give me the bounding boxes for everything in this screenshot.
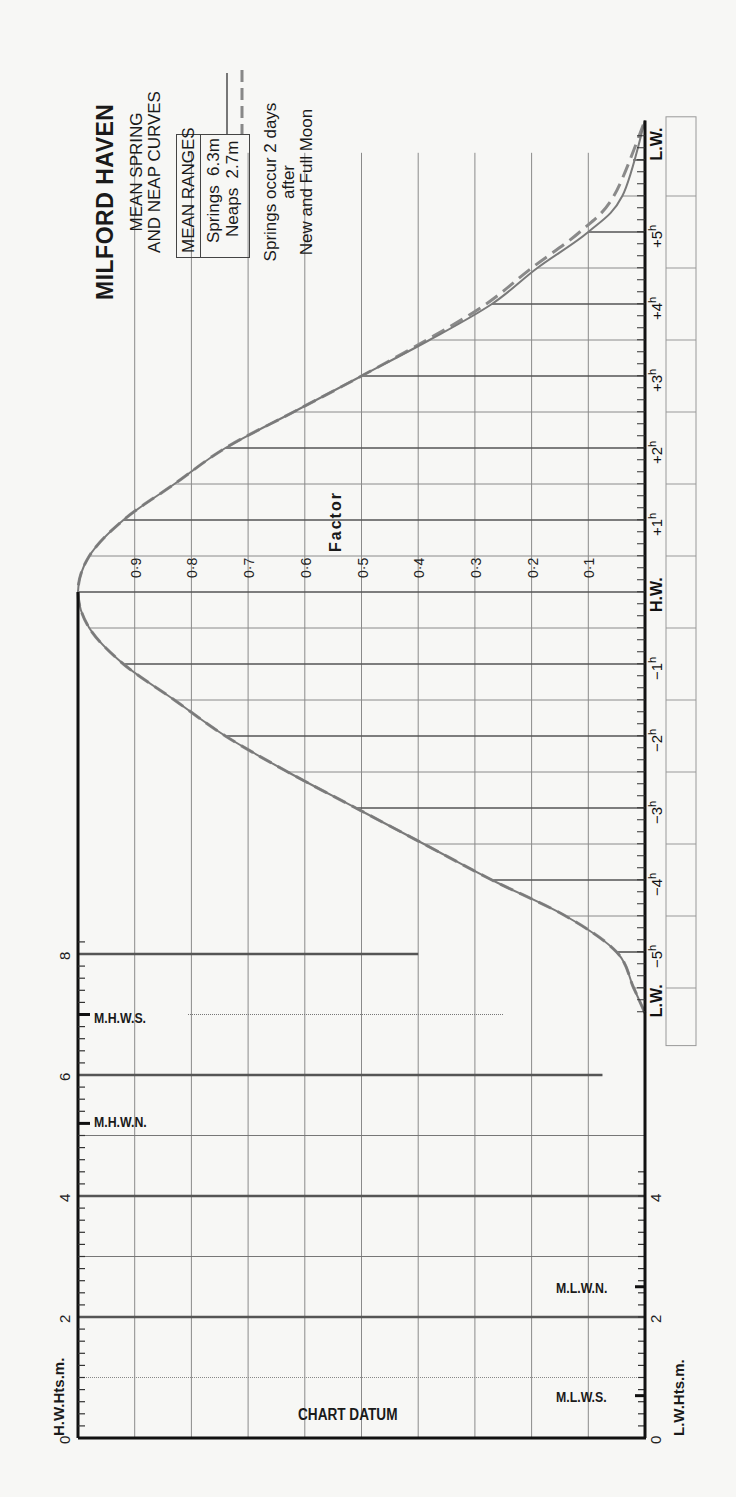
axes bbox=[78, 117, 696, 1438]
hw-height-label: 8 bbox=[56, 952, 73, 960]
factor-tick-label: 0·7 bbox=[241, 558, 257, 578]
factor-tick-label: 0·2 bbox=[525, 558, 541, 578]
lw-time-label: L.W. bbox=[648, 128, 665, 161]
mlws-label: M.L.W.S. bbox=[556, 1389, 607, 1405]
neaps-range: Neaps 2.7m bbox=[223, 135, 242, 257]
factor-tick-label: 0·6 bbox=[298, 558, 314, 578]
hw-height-label: 0 bbox=[56, 1436, 73, 1444]
springs-range: Springs 6.3m bbox=[201, 135, 223, 257]
hw-height-label: 4 bbox=[56, 1194, 73, 1202]
lw-height-label: 4 bbox=[647, 1194, 664, 1202]
hour-label: −2h bbox=[646, 729, 665, 752]
factor-tick-label: 0·8 bbox=[184, 558, 200, 578]
mean-ranges-heading: MEAN RANGES bbox=[177, 135, 201, 257]
mhws-label: M.H.W.S. bbox=[94, 1010, 146, 1026]
springs-note-2: after bbox=[280, 82, 298, 282]
axis-labels: 0·10·20·30·40·50·60·70·80·9L.W.−5h−4h−3h… bbox=[56, 128, 665, 1444]
lw-height-label: 2 bbox=[647, 1315, 664, 1323]
factor-tick-label: 0·3 bbox=[468, 558, 484, 578]
factor-tick-label: 0·4 bbox=[411, 558, 427, 578]
chart-datum-label: CHART DATUM bbox=[298, 1406, 397, 1424]
lw-height-label: 0 bbox=[647, 1436, 664, 1444]
hw-heights-label: H.W.Hts.m. bbox=[50, 1358, 67, 1436]
factor-tick-label: 0·5 bbox=[355, 558, 371, 578]
chart-subtitle-2: AND NEAP CURVES bbox=[146, 82, 164, 262]
hw-time-label: H.W. bbox=[648, 577, 665, 612]
hour-label: +5h bbox=[646, 225, 665, 248]
hour-label: −4h bbox=[646, 873, 665, 896]
chart-title: MILFORD HAVEN bbox=[92, 104, 119, 300]
factor-label: Factor bbox=[327, 491, 345, 552]
side-column bbox=[666, 117, 696, 1046]
hour-label: −3h bbox=[646, 801, 665, 824]
lw-time-label: L.W. bbox=[648, 984, 665, 1017]
hour-label: −1h bbox=[646, 657, 665, 680]
hour-label: +1h bbox=[646, 513, 665, 536]
chart-grid bbox=[78, 153, 645, 1438]
mlwn-label: M.L.W.N. bbox=[556, 1280, 607, 1296]
springs-note-3: New and Full Moon bbox=[298, 82, 316, 282]
hour-label: +3h bbox=[646, 369, 665, 392]
hw-height-label: 6 bbox=[56, 1073, 73, 1081]
factor-tick-label: 0·9 bbox=[128, 558, 144, 578]
mean-ranges-box: MEAN RANGES Springs 6.3m Neaps 2.7m bbox=[176, 134, 250, 258]
hour-label: +4h bbox=[646, 297, 665, 320]
hour-label: −5h bbox=[646, 945, 665, 968]
hour-label: +2h bbox=[646, 441, 665, 464]
hw-height-label: 2 bbox=[56, 1315, 73, 1323]
springs-note-1: Springs occur 2 days bbox=[262, 82, 280, 282]
chart-subtitle-1: MEAN SPRING bbox=[128, 82, 146, 262]
factor-tick-label: 0·1 bbox=[581, 558, 597, 578]
lw-heights-label: L.W.Hts.m. bbox=[670, 1359, 687, 1436]
mhwn-label: M.H.W.N. bbox=[94, 1114, 147, 1130]
